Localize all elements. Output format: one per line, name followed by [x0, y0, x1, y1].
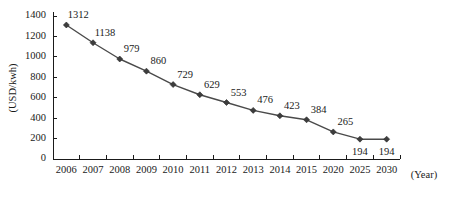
y-axis-tick-marks: [53, 16, 57, 159]
x-tick-label: 2020: [323, 164, 344, 175]
data-point-label: 729: [177, 69, 193, 80]
data-point-marker: [330, 129, 336, 135]
data-point-marker: [197, 92, 203, 98]
x-tick-label: 2012: [216, 164, 237, 175]
y-tick-label: 600: [30, 91, 46, 102]
data-point-marker: [170, 82, 176, 88]
x-tick-label: 2030: [376, 164, 397, 175]
data-point-label: 553: [231, 87, 247, 98]
y-axis-tick-labels: 0200400600800100012001400: [25, 9, 46, 163]
x-tick-label: 2006: [56, 164, 77, 175]
data-point-label: 423: [284, 100, 300, 111]
y-tick-label: 1200: [25, 30, 46, 41]
data-point-marker: [277, 113, 283, 119]
y-tick-label: 1400: [25, 9, 46, 20]
x-tick-label: 2015: [296, 164, 317, 175]
x-tick-label: 2025: [349, 164, 370, 175]
data-point-label: 476: [257, 94, 273, 105]
x-tick-label: 2013: [243, 164, 264, 175]
data-point-label: 629: [204, 79, 220, 90]
data-point-label: 194: [379, 146, 396, 157]
y-tick-label: 200: [30, 132, 46, 143]
x-axis-tick-labels: 2006200720082009201020112012201320142015…: [56, 164, 397, 175]
data-point-marker: [384, 136, 390, 142]
x-tick-label: 2011: [189, 164, 210, 175]
line-chart: 0200400600800100012001400 20062007200820…: [0, 0, 450, 201]
x-tick-label: 2007: [83, 164, 104, 175]
y-axis-title: (USD/kwh): [7, 63, 19, 113]
data-point-label: 265: [337, 116, 353, 127]
y-tick-label: 0: [41, 152, 46, 163]
y-tick-label: 1000: [25, 50, 46, 61]
x-tick-label: 2014: [269, 164, 291, 175]
data-point-label: 384: [311, 104, 328, 115]
y-tick-label: 800: [30, 71, 46, 82]
data-point-label: 1138: [95, 27, 116, 38]
x-tick-label: 2010: [163, 164, 184, 175]
data-point-label: 1312: [68, 9, 89, 20]
data-point-marker: [250, 107, 256, 113]
data-point-label: 979: [124, 43, 140, 54]
data-point-marker: [117, 56, 123, 62]
y-tick-label: 400: [30, 112, 46, 123]
x-tick-label: 2008: [109, 164, 130, 175]
data-point-label: 860: [151, 55, 167, 66]
x-axis-title: (Year): [411, 169, 438, 181]
data-point-marker: [143, 68, 149, 74]
data-point-marker: [304, 117, 310, 123]
data-point-label: 194: [352, 146, 369, 157]
x-axis-tick-marks: [53, 155, 400, 159]
x-tick-label: 2009: [136, 164, 157, 175]
data-point-marker: [224, 100, 230, 106]
data-point-marker: [357, 136, 363, 142]
chart-canvas: 0200400600800100012001400 20062007200820…: [0, 0, 450, 201]
